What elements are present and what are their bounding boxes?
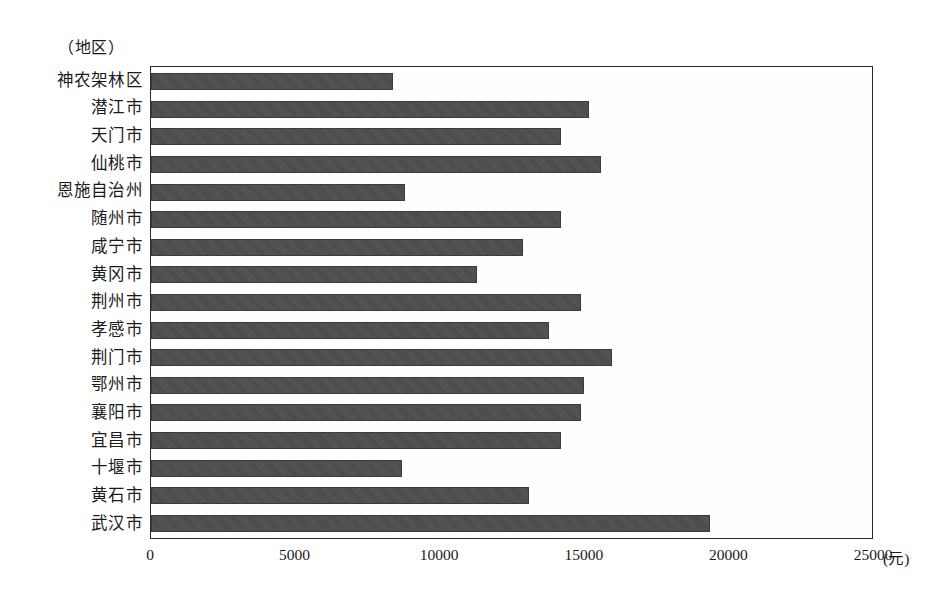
bar-row <box>151 510 872 538</box>
category-label: 神农架林区 <box>0 67 148 95</box>
bar <box>151 73 393 90</box>
x-axis-tick: 0 <box>146 546 154 564</box>
bar <box>151 101 589 118</box>
category-label-column: 神农架林区潜江市天门市仙桃市恩施自治州随州市咸宁市黄冈市荆州市孝感市荆门市鄂州市… <box>0 67 148 538</box>
bar <box>151 211 561 228</box>
bar-row <box>151 123 872 151</box>
x-axis-tick: 5000 <box>279 546 310 564</box>
bar <box>151 515 710 532</box>
category-label: 孝感市 <box>0 316 148 344</box>
bar-row <box>151 151 872 179</box>
bar <box>151 156 601 173</box>
category-label: 荆州市 <box>0 289 148 317</box>
x-axis-tick-labels: 0500010000150002000025000 <box>150 546 873 572</box>
x-axis-tick: 20000 <box>709 546 748 564</box>
bar-row <box>151 234 872 262</box>
category-label: 宜昌市 <box>0 427 148 455</box>
bar-row <box>151 344 872 372</box>
category-label: 恩施自治州 <box>0 178 148 206</box>
category-label: 鄂州市 <box>0 372 148 400</box>
bar <box>151 184 405 201</box>
category-label: 武汉市 <box>0 510 148 538</box>
bar <box>151 404 581 421</box>
bar-row <box>151 399 872 427</box>
category-label: 潜江市 <box>0 95 148 123</box>
x-axis-tick: 15000 <box>564 546 603 564</box>
bar-row <box>151 454 872 482</box>
bars-layer <box>151 68 872 537</box>
bar-row <box>151 316 872 344</box>
bar-row <box>151 206 872 234</box>
category-label: 襄阳市 <box>0 399 148 427</box>
bar <box>151 460 402 477</box>
bar <box>151 377 584 394</box>
category-label: 黄冈市 <box>0 261 148 289</box>
bar-row <box>151 427 872 455</box>
category-label: 十堰市 <box>0 455 148 483</box>
bar-row <box>151 68 872 96</box>
bar <box>151 487 529 504</box>
bar <box>151 128 561 145</box>
category-label: 咸宁市 <box>0 233 148 261</box>
category-label: 天门市 <box>0 122 148 150</box>
category-label: 荆门市 <box>0 344 148 372</box>
bar <box>151 266 477 283</box>
x-axis-unit-label: (元) <box>883 546 909 568</box>
x-axis-tick: 10000 <box>420 546 459 564</box>
category-label: 黄石市 <box>0 483 148 511</box>
bar-row <box>151 289 872 317</box>
bar <box>151 239 523 256</box>
bar-chart: （地区） 神农架林区潜江市天门市仙桃市恩施自治州随州市咸宁市黄冈市荆州市孝感市荆… <box>0 0 948 604</box>
bar-row <box>151 482 872 510</box>
bar-row <box>151 261 872 289</box>
bar-row <box>151 178 872 206</box>
bar-row <box>151 96 872 124</box>
bar-row <box>151 372 872 400</box>
plot-area <box>150 66 873 539</box>
bar <box>151 294 581 311</box>
bar <box>151 432 561 449</box>
category-label: 仙桃市 <box>0 150 148 178</box>
y-axis-caption: （地区） <box>58 34 124 58</box>
category-label: 随州市 <box>0 206 148 234</box>
bar <box>151 349 612 366</box>
bar <box>151 322 549 339</box>
